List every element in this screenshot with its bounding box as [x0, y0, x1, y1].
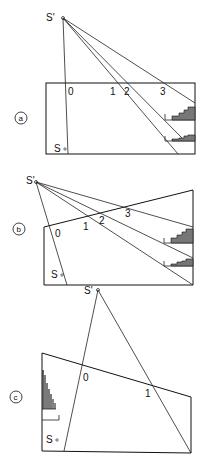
scale-mark-3: 3 — [125, 208, 131, 219]
panel-b-label: b — [17, 225, 22, 234]
panel-c: S' 0 1 S c — [10, 285, 191, 453]
source-prime-label: S' — [46, 12, 55, 23]
histogram-upper — [164, 229, 193, 243]
panel-c-frame — [42, 353, 191, 453]
histogram-lower — [164, 259, 193, 266]
source-point — [61, 274, 63, 276]
panel-b: S' 0 1 2 3 S b — [13, 175, 193, 285]
scale-mark-3: 3 — [160, 86, 166, 97]
source-point — [56, 439, 58, 441]
histogram-upper — [165, 107, 195, 120]
panel-a-label: a — [19, 114, 24, 123]
source-label: S — [46, 434, 53, 445]
source-label: S — [51, 269, 58, 280]
scale-mark-2: 2 — [99, 215, 105, 226]
source-prime-label: S' — [84, 285, 93, 296]
scale-mark-1: 1 — [110, 86, 116, 97]
source-point — [64, 148, 66, 150]
scale-mark-2: 2 — [124, 86, 130, 97]
panel-c-label: c — [14, 393, 18, 402]
scale-mark-0: 0 — [83, 372, 89, 383]
scale-mark-1: 1 — [83, 221, 89, 232]
source-prime-label: S' — [26, 175, 35, 186]
scale-mark-0: 0 — [55, 228, 61, 239]
panel-a: S' 0 1 2 3 S a — [15, 12, 195, 154]
diagram-canvas: S' 0 1 2 3 S a S' 0 1 2 — [0, 0, 205, 462]
source-label: S — [54, 143, 61, 154]
scale-mark-1: 1 — [145, 388, 151, 399]
histogram-vertical — [42, 370, 59, 420]
scale-mark-0: 0 — [68, 86, 74, 97]
